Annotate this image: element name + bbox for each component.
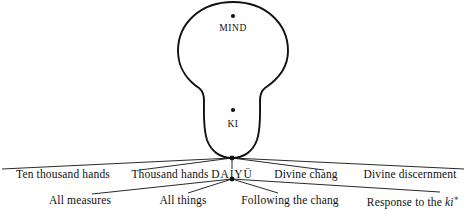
label-all-things: All things [159, 195, 206, 207]
label-daiyu: DAIYŪ [211, 169, 253, 181]
mind-label: MIND [219, 24, 247, 34]
label-following-the-chang: Following the chang [241, 195, 338, 207]
ki-footnote-marker: ∗ [454, 194, 460, 203]
label-divine-chang: Divine chang [274, 169, 337, 181]
mind-dot-icon [231, 14, 235, 18]
label-ten-thousand-hands: Ten thousand hands [16, 169, 110, 181]
edge-to-all-measures [92, 179, 232, 194]
label-divine-discernment: Divine discernment [363, 169, 456, 181]
response-prefix-text: Response to the [367, 196, 445, 208]
lower-tier-edges [92, 179, 440, 194]
ki-italic-text: ki [445, 196, 454, 208]
ki-dot-icon [231, 108, 235, 112]
ki-label: KI [227, 120, 238, 130]
edge-to-response-to-the-ki [232, 179, 440, 192]
label-response-to-the-ki: Response to the ki∗ [367, 195, 459, 208]
mind-ki-daiyu-diagram: MIND KI Ten thousand hands Thousand hand… [0, 0, 467, 223]
label-all-measures: All measures [49, 195, 111, 207]
label-thousand-hands: Thousand hands [131, 169, 208, 181]
